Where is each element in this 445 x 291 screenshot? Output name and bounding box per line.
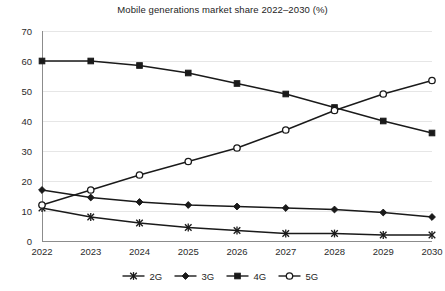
data-point-marker [185, 158, 191, 164]
legend-label: 4G [254, 271, 267, 282]
data-point-marker [380, 209, 387, 216]
y-tick-label: 30 [21, 146, 32, 157]
line-chart-plot: 010203040506070 202220232024202520262027… [0, 0, 445, 291]
data-point-marker [234, 203, 241, 210]
data-point-marker [331, 206, 338, 213]
data-point-marker [39, 202, 45, 208]
data-point-marker [234, 145, 240, 151]
data-point-marker [88, 58, 94, 64]
x-tick-label: 2028 [324, 246, 345, 257]
y-tick-label: 50 [21, 86, 32, 97]
legend-item-4g[interactable]: 4G [227, 271, 267, 282]
series-line [42, 81, 432, 206]
data-point-marker [39, 58, 45, 64]
y-tick-label: 70 [21, 26, 32, 37]
series-3g [39, 187, 436, 221]
legend-item-3g[interactable]: 3G [175, 271, 215, 282]
data-point-marker [87, 194, 94, 201]
legend-item-2g[interactable]: 2G [123, 271, 163, 282]
x-tick-label: 2023 [80, 246, 101, 257]
data-point-marker [331, 107, 337, 113]
x-tick-label: 2024 [129, 246, 150, 257]
data-point-marker [429, 130, 435, 136]
series-5g [39, 77, 435, 208]
data-point-marker [380, 91, 386, 97]
y-tick-label: 60 [21, 56, 32, 67]
data-point-marker [429, 214, 436, 221]
data-point-marker [380, 118, 386, 124]
x-axis-tick-labels: 202220232024202520262027202820292030 [31, 246, 442, 257]
y-tick-label: 40 [21, 116, 32, 127]
data-point-marker [88, 187, 94, 193]
data-point-marker [282, 205, 289, 212]
data-point-marker [283, 91, 289, 97]
data-point-marker [283, 127, 289, 133]
gridlines [42, 31, 432, 211]
x-tick-label: 2022 [31, 246, 52, 257]
y-tick-label: 10 [21, 206, 32, 217]
y-axis-tick-labels: 010203040506070 [21, 26, 32, 247]
y-tick-label: 20 [21, 176, 32, 187]
data-point-marker [185, 202, 192, 209]
data-point-marker [235, 273, 241, 279]
x-tick-label: 2027 [275, 246, 296, 257]
data-point-marker [39, 187, 46, 194]
data-point-marker [136, 172, 142, 178]
data-point-marker [234, 81, 240, 87]
x-tick-label: 2029 [373, 246, 394, 257]
x-tick-label: 2030 [421, 246, 442, 257]
data-point-marker [286, 273, 292, 279]
x-tick-label: 2026 [226, 246, 247, 257]
legend-label: 3G [202, 271, 215, 282]
data-point-marker [182, 273, 189, 280]
chart-container: Mobile generations market share 2022–203… [0, 0, 445, 291]
x-tick-label: 2025 [178, 246, 199, 257]
data-point-marker [136, 199, 143, 206]
data-point-marker [429, 77, 435, 83]
chart-legend: 2G3G4G5G [123, 271, 319, 282]
data-point-marker [185, 70, 191, 76]
data-point-marker [137, 63, 143, 69]
y-tick-label: 0 [27, 236, 32, 247]
legend-label: 5G [306, 271, 319, 282]
legend-label: 2G [150, 271, 163, 282]
legend-item-5g[interactable]: 5G [279, 271, 319, 282]
data-series-layer [39, 58, 436, 239]
